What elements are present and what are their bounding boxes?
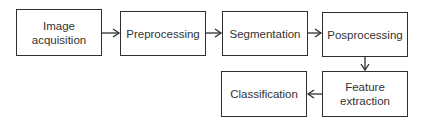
arrow-icon (361, 57, 369, 70)
edges-layer (0, 0, 424, 125)
arrow-icon (206, 29, 221, 37)
arrow-icon (102, 29, 119, 37)
arrow-icon (308, 90, 322, 98)
arrow-icon (308, 29, 321, 37)
